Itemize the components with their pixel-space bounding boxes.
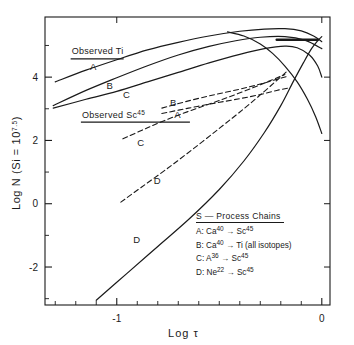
legend-entry-0: A: Ca40 → Sc45	[196, 225, 254, 237]
curve-label-dashed-b: B	[170, 97, 176, 108]
x-tick-label: 0	[319, 313, 325, 324]
y-tick-label: 0	[32, 198, 38, 209]
curve-label-dashed-d: D	[154, 175, 161, 186]
x-axis-title: Log τ	[168, 327, 199, 339]
plot-frame	[45, 17, 330, 305]
curve-label-dashed-a: A	[174, 109, 181, 120]
y-axis-title: Log N (Si = 107.5)	[10, 116, 22, 210]
y-tick-label: 4	[32, 72, 38, 83]
legend-entry-3: D: Ne22 → Sc45	[196, 265, 254, 277]
curve-label-solid-a: A	[90, 61, 97, 72]
curve-dashed-C	[123, 75, 285, 139]
curve-label-solid-b: B	[107, 80, 113, 91]
x-tick-label: -1	[112, 313, 121, 324]
curve-label-solid-d: D	[133, 234, 140, 245]
curve-label-solid-c: C	[123, 89, 130, 100]
s-process-abundance-chart: -10420-2Observed TiObserved Sc45ABCBACDD…	[0, 0, 354, 345]
y-tick-label: -2	[29, 262, 38, 273]
legend-entry-2: C: A36 → Sc45	[196, 252, 249, 264]
y-tick-label: 2	[32, 135, 38, 146]
observed-ti: Observed Ti	[72, 46, 124, 56]
curve-label-dashed-c: C	[137, 137, 144, 148]
legend-entry-1: B: Ca40 → Ti (all isotopes)	[196, 238, 292, 250]
chart-figure: -10420-2Observed TiObserved Sc45ABCBACDD…	[0, 0, 354, 345]
observed-sc45: Observed Sc45	[82, 108, 145, 120]
legend-title: S — Process Chains	[196, 211, 281, 221]
